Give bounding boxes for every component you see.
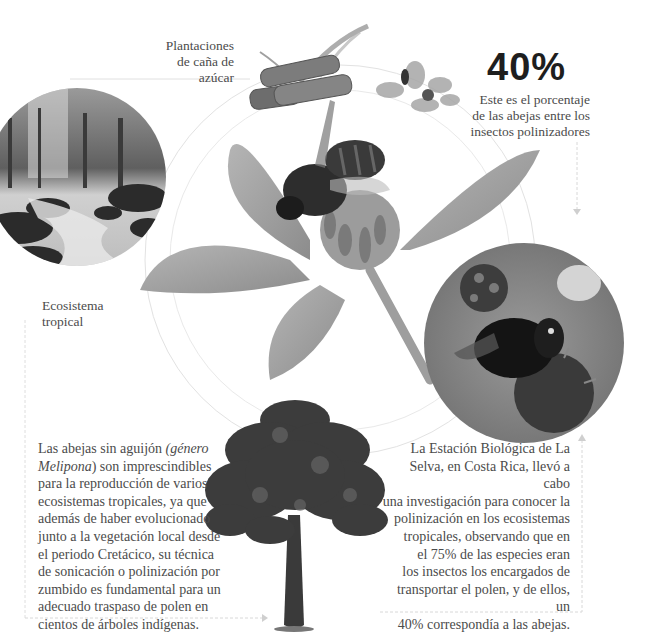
paragraph-line: junto a la vegetación local desde	[38, 528, 278, 546]
ecosystem-label-line: tropical	[42, 314, 103, 330]
ecosystem-label-line: Ecosistema	[42, 298, 103, 314]
paragraph-line: tropicales, observando que en	[380, 528, 570, 546]
paragraph-line: adecuado traspaso de polen en	[38, 598, 278, 616]
paragraph-line: Melipona) son imprescindibles	[38, 458, 278, 476]
paragraph-line: 40% correspondía a las abejas.	[380, 616, 570, 634]
sugarcane-label-line: Plantaciones	[150, 38, 234, 54]
paragraph-line: La Estación Biológica de La	[380, 440, 570, 458]
la-selva-study-paragraph: La Estación Biológica de La Selva, en Co…	[380, 440, 570, 634]
text-run: Las abejas sin aguijón	[38, 441, 166, 456]
sugarcane-label-line: de caña de	[150, 54, 234, 70]
paragraph-line: transportar el polen, y de ellos, un	[380, 581, 570, 616]
sugarcane-label-line: azúcar	[150, 70, 234, 86]
paragraph-line: ecosistemas tropicales, ya que	[38, 493, 278, 511]
paragraph-line: polinización en los ecosistemas	[380, 510, 570, 528]
paragraph-line: el 75% de las especies eran	[380, 546, 570, 564]
text-run-italic: Melipona	[38, 459, 92, 474]
paragraph-line: además de haber evolucionado	[38, 510, 278, 528]
paragraph-line: los insectos los encargados de	[380, 563, 570, 581]
melipona-bees-paragraph: Las abejas sin aguijón (género Melipona)…	[38, 440, 278, 634]
bumblebee-on-flower-photo	[424, 243, 624, 443]
paragraph-line: cientos de árboles indígenas.	[38, 616, 278, 634]
paragraph-line: de sonicación o polinización por	[38, 563, 278, 581]
bumblebee-image	[424, 243, 624, 443]
paragraph-line: Selva, en Costa Rica, llevó a cabo	[380, 458, 570, 493]
text-run: ) son imprescindibles	[92, 459, 212, 474]
stat-value: 40%	[487, 46, 566, 89]
sugarcane-label: Plantaciones de caña de azúcar	[150, 38, 234, 86]
ecosystem-label: Ecosistema tropical	[42, 298, 103, 330]
paragraph-line: una investigación para conocer la	[380, 493, 570, 511]
paragraph-line: el periodo Cretácico, su técnica	[38, 546, 278, 564]
paragraph-line: Las abejas sin aguijón (género	[38, 440, 278, 458]
paragraph-line: para la reproducción de varios	[38, 475, 278, 493]
paragraph-line: zumbido es fundamental para un	[38, 581, 278, 599]
text-run-italic: (género	[166, 441, 209, 456]
